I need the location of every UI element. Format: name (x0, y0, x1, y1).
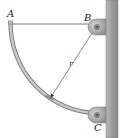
label-r: r (69, 59, 74, 68)
label-a: A (6, 8, 14, 19)
label-c: C (94, 122, 102, 133)
diagram-canvas: A B C r (0, 0, 123, 138)
wall (106, 0, 118, 138)
label-b: B (83, 12, 91, 23)
rod-end-a (9, 21, 13, 24)
pin-support-c (88, 107, 106, 123)
radius-line (51, 27, 96, 97)
